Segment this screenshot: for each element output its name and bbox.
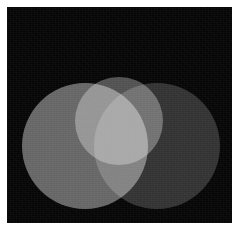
figure-root: [0, 0, 239, 230]
plot-canvas: [7, 7, 232, 223]
venn-diagram: [7, 7, 232, 223]
venn-circle-group: [22, 77, 220, 209]
venn-circle-top[interactable]: [75, 77, 163, 165]
